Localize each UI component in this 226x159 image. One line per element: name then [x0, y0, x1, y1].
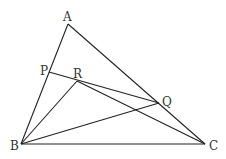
- label-p: P: [40, 64, 48, 78]
- segment-br: [21, 81, 77, 144]
- segment-bq: [21, 103, 159, 144]
- segment-pq: [49, 72, 159, 103]
- label-q: Q: [162, 95, 172, 109]
- label-c: C: [209, 139, 218, 153]
- label-r: R: [73, 67, 83, 81]
- triangle-diagram: A P R Q B C: [0, 0, 226, 159]
- label-b: B: [10, 139, 19, 153]
- segment-ac: [68, 24, 205, 144]
- segment-rc: [77, 81, 205, 144]
- segment-ab: [21, 24, 68, 144]
- label-a: A: [62, 10, 72, 24]
